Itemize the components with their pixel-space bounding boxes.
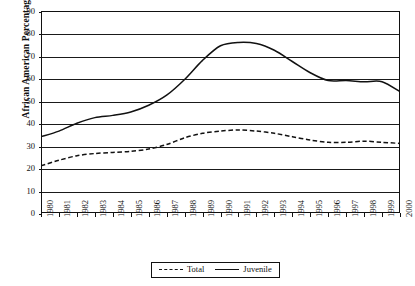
y-axis-tick-label: 20 [27, 163, 36, 173]
x-axis-tick-label: 1984 [116, 200, 126, 217]
x-axis-labels: 1980198119821983198419851986198719881989… [0, 217, 415, 259]
x-axis-tick-label: 1980 [45, 200, 55, 217]
legend-swatch-solid-icon [215, 266, 239, 272]
legend-item-total: Total [159, 265, 204, 274]
legend-swatch-dashed-icon [159, 266, 183, 272]
series-line-total [41, 130, 400, 166]
x-axis-tick-label: 1983 [98, 200, 108, 217]
x-axis-tick-label: 1994 [296, 200, 306, 217]
x-axis-tick-label: 1992 [260, 200, 270, 217]
x-axis-tick-label: 1981 [62, 200, 72, 217]
x-axis-tick-label: 1987 [170, 200, 180, 217]
legend-label-total: Total [187, 265, 204, 274]
y-axis-tick-label: 40 [27, 118, 36, 128]
x-axis-tick-label: 1988 [188, 200, 198, 217]
legend-item-juvenile: Juvenile [215, 265, 271, 274]
x-axis-tick-label: 1997 [350, 200, 360, 217]
y-axis-tick-label: 70 [27, 51, 36, 61]
legend-label-juvenile: Juvenile [243, 265, 271, 274]
x-axis-tick-label: 1999 [386, 200, 396, 217]
y-axis-tick-label: 80 [27, 28, 36, 38]
x-axis-tick-label: 1982 [80, 200, 90, 217]
x-axis-tick-label: 1986 [152, 200, 162, 217]
x-axis-tick-label: 1989 [206, 200, 216, 217]
series-layer [41, 11, 400, 213]
x-axis-tick-label: 1996 [332, 200, 342, 217]
x-axis-tick-label: 2000 [404, 200, 414, 217]
series-line-juvenile [41, 42, 400, 136]
x-axis-tick-label: 1985 [134, 200, 144, 217]
x-axis-tick-label: 1990 [224, 200, 234, 217]
x-axis-tick-label: 1991 [242, 200, 252, 217]
y-axis-tick-label: 60 [27, 73, 36, 83]
x-axis-tick-label: 1995 [314, 200, 324, 217]
y-axis-tick-label: 90 [27, 6, 36, 16]
x-axis-tick-label: 1998 [368, 200, 378, 217]
y-axis-tick-label: 30 [27, 141, 36, 151]
line-chart: African American Percentage 010203040506… [0, 0, 415, 286]
legend: Total Juvenile [151, 262, 280, 278]
y-axis-tick-label: 50 [27, 96, 36, 106]
y-axis-tick-label: 10 [27, 186, 36, 196]
x-axis-tick-label: 1993 [278, 200, 288, 217]
